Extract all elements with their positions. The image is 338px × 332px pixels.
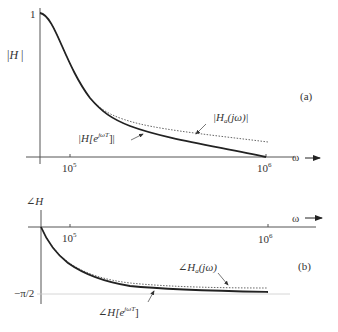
legend-analog-phase: ∠Ha(jω) xyxy=(178,262,217,275)
panel-b-y-label: ∠H xyxy=(26,196,43,207)
panel-b-x-tick-10e6: 106 xyxy=(258,233,273,245)
tick-base: 10 xyxy=(258,233,269,245)
ylabel-var: H xyxy=(9,48,18,62)
tick-exp: 6 xyxy=(269,232,273,240)
chart-canvas xyxy=(0,0,338,332)
panel-a-x-tick-10e5: 105 xyxy=(62,162,77,174)
legend-analog-magnitude: |Ha(jω)| xyxy=(213,112,249,125)
series-label: |H[e xyxy=(78,132,98,144)
panel-a-x-tick-10e6: 106 xyxy=(257,162,272,174)
arrow-analog-label-a xyxy=(196,124,206,134)
panel-b-y-tick-minus-pi-over-2: −π/2 xyxy=(14,288,34,299)
series-exp: jωT xyxy=(124,305,135,313)
panel-a-label: (a) xyxy=(300,91,312,102)
panel-b-label: (b) xyxy=(298,261,311,272)
series-end: ]| xyxy=(109,132,115,144)
ylabel-bar-right: | xyxy=(18,48,23,62)
arrow-analog-label-b xyxy=(218,273,228,285)
legend-digital-phase: ∠H[ejωT] xyxy=(98,306,139,318)
curve-digital-magnitude xyxy=(40,13,266,157)
legend-digital-magnitude: |H[ejωT]| xyxy=(78,132,115,144)
series-end: (jω)| xyxy=(227,111,248,123)
arrow-digital-label-a xyxy=(131,134,143,140)
series-end: (jω) xyxy=(199,261,217,273)
tick-exp: 6 xyxy=(268,161,272,169)
series-end: ] xyxy=(135,306,139,318)
tick-base: 10 xyxy=(62,162,73,174)
panel-a-y-tick-1: 1 xyxy=(30,9,36,20)
panel-a-x-axis-label: ω xyxy=(292,152,299,163)
series-label: ∠H[e xyxy=(98,306,124,318)
panel-b-x-axis-label: ω xyxy=(292,213,299,224)
series-exp: jωT xyxy=(98,131,109,139)
series-label: |H xyxy=(213,111,224,123)
arrow-digital-label-b xyxy=(148,291,154,302)
tick-base: 10 xyxy=(257,162,268,174)
panel-a-y-label: |H | xyxy=(7,49,23,61)
series-label: ∠H xyxy=(178,261,195,273)
tick-exp: 5 xyxy=(73,231,77,239)
panel-b xyxy=(28,210,322,304)
tick-exp: 5 xyxy=(73,161,77,169)
panel-b-x-tick-10e5: 105 xyxy=(62,232,77,244)
tick-base: 10 xyxy=(62,232,73,244)
panel-a xyxy=(26,8,320,164)
